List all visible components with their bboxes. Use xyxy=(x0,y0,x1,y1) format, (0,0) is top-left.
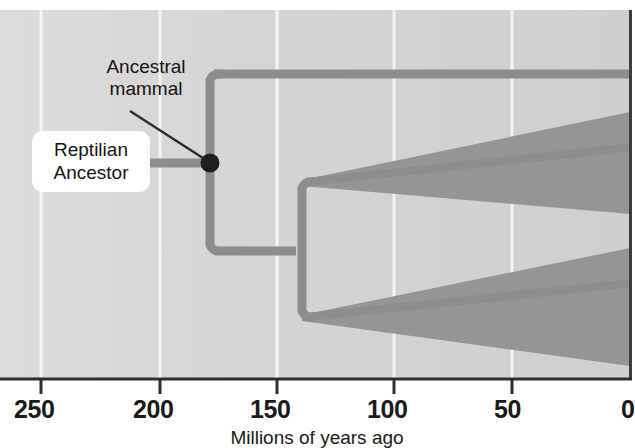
axis-tick-label-100: 100 xyxy=(367,397,408,422)
ancestral-mammal-label: Ancestral mammal xyxy=(84,56,208,99)
reptilian-ancestor-label-box: Reptilian Ancestor xyxy=(32,131,150,192)
axis-tick-label-200: 200 xyxy=(133,397,174,422)
axis-tick-label-0: 0 xyxy=(621,397,635,422)
axis-tick-label-250: 250 xyxy=(14,397,55,422)
ancestral-mammal-node xyxy=(201,154,220,173)
axis-tick-marks xyxy=(41,379,512,394)
axis-title: Millions of years ago xyxy=(0,428,634,447)
axis-tick-label-150: 150 xyxy=(250,397,291,422)
axis-tick-label-50: 50 xyxy=(494,397,521,422)
